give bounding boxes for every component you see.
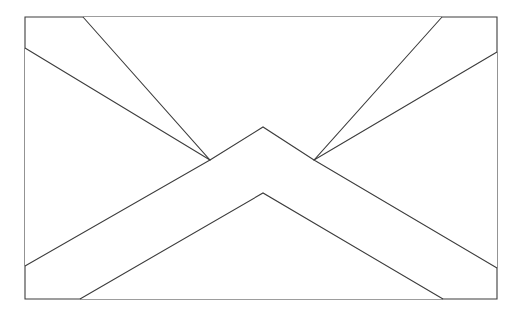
flag-drawing	[0, 0, 523, 317]
flag-outline-canvas: Flag Outline Line Drawing Flag of Jamaic…	[0, 0, 523, 317]
